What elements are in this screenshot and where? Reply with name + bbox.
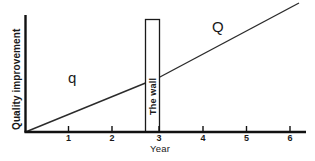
x-axis-title: Year — [140, 144, 180, 154]
series-line-Q — [159, 3, 299, 78]
line-chart-figure: Quality improvement Year 1 2 3 4 5 6 The… — [0, 0, 315, 161]
x-tick-label-6: 6 — [283, 134, 297, 143]
x-tick-label-2: 2 — [105, 134, 119, 143]
series-line-q — [26, 78, 160, 133]
x-tick-label-3: 3 — [152, 134, 166, 143]
x-tick-label-5: 5 — [240, 134, 254, 143]
the-wall-label: The wall — [149, 78, 158, 115]
series-label-q-lower: q — [68, 70, 76, 85]
x-tick-label-4: 4 — [196, 134, 210, 143]
y-axis-title: Quality improvement — [12, 29, 22, 130]
series-label-q-upper: Q — [212, 19, 224, 34]
x-tick-label-1: 1 — [62, 134, 76, 143]
the-wall-rect — [146, 20, 160, 133]
